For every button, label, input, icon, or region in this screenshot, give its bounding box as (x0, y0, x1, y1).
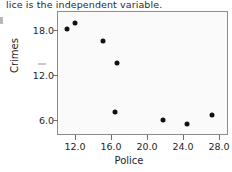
x-tick-mark (75, 135, 76, 140)
y-tick-mark (53, 120, 58, 121)
x-tick-mark (111, 135, 112, 140)
x-axis-label: Police (0, 155, 232, 166)
x-axis-label-text: Police (115, 155, 144, 166)
plot-area (57, 11, 228, 135)
data-point (65, 26, 70, 31)
data-point (209, 113, 214, 118)
x-tick-label: 20.0 (136, 141, 157, 152)
x-tick-label: 16.0 (100, 141, 121, 152)
data-point (112, 110, 117, 115)
y-tick-label: 6.0 (39, 115, 54, 126)
scatter-plot-figure: 6.012.018.0 12.016.020.024.028.0 Crimes … (0, 0, 232, 172)
y-tick-label: 12.0 (33, 70, 54, 81)
data-point (161, 118, 166, 123)
x-tick-label: 24.0 (172, 141, 193, 152)
x-tick-label: 12.0 (64, 141, 85, 152)
data-point (115, 61, 120, 66)
data-point (184, 122, 189, 127)
x-tick-label: 28.0 (208, 141, 229, 152)
y-tick-label: 18.0 (33, 25, 54, 36)
x-tick-mark (183, 135, 184, 140)
y-axis-label: Crimes (9, 21, 20, 91)
data-point (101, 38, 106, 43)
x-tick-mark (147, 135, 148, 140)
x-tick-mark (219, 135, 220, 140)
y-tick-mark (53, 30, 58, 31)
y-tick-mark (53, 75, 58, 76)
data-point (73, 20, 78, 25)
